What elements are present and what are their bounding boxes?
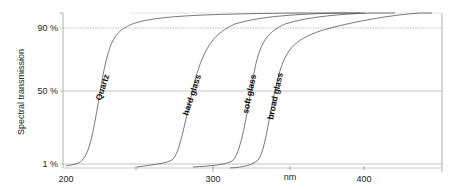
label-hard-glass: hard glass	[180, 73, 203, 117]
x-tick-200: 200	[58, 174, 73, 184]
curve-soft-glass	[193, 13, 395, 167]
curve-broad-glass	[230, 13, 432, 168]
y-tick-90: 90 %	[37, 23, 58, 33]
y-tick-50: 50 %	[37, 86, 58, 96]
label-soft-glass: soft glass	[240, 73, 258, 114]
x-tick-300: 300	[205, 174, 220, 184]
x-tick-400: 400	[356, 174, 371, 184]
x-unit-label: nm	[284, 172, 297, 182]
transmission-chart: 90 % 50 % 1 % 200 300 nm 400 Spectral tr…	[0, 0, 455, 189]
label-broad-glass: broad glass	[265, 71, 285, 120]
curve-quartz	[66, 13, 360, 166]
label-quartz: Quartz	[93, 73, 111, 102]
y-tick-1: 1 %	[42, 159, 58, 169]
y-axis-title: Spectral transmission	[16, 49, 26, 135]
